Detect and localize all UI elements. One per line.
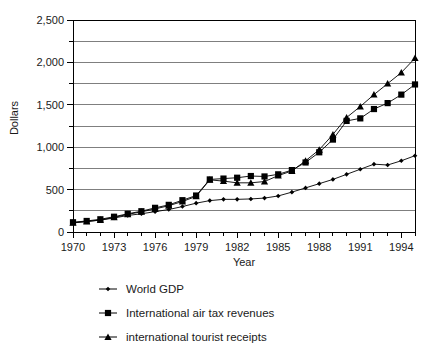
marker-square <box>385 100 391 106</box>
y-axis-title: Dollars <box>8 100 20 135</box>
x-tick-label: 1976 <box>143 241 167 253</box>
legend-label: international tourist receipts <box>126 331 267 343</box>
x-tick-label: 1979 <box>184 241 208 253</box>
y-tick-label: 1,000 <box>36 141 64 153</box>
marker-square <box>357 115 363 121</box>
y-tick-label: 2,500 <box>36 14 64 26</box>
marker-square <box>398 92 404 98</box>
y-tick-label: 500 <box>46 184 64 196</box>
x-tick-label: 1991 <box>348 241 372 253</box>
legend-label: International air tax revenues <box>126 307 275 319</box>
chart-figure: 05001,0001,5002,0002,500 197019731976197… <box>0 0 435 348</box>
x-tick-label: 1973 <box>102 241 126 253</box>
legend-item[interactable]: International air tax revenues <box>99 307 275 319</box>
x-tick-label: 1985 <box>266 241 290 253</box>
y-tick-label: 2,000 <box>36 56 64 68</box>
marker-square <box>248 173 254 179</box>
x-tick-label: 1988 <box>307 241 331 253</box>
chart-background <box>0 0 435 348</box>
legend-label: World GDP <box>126 283 184 295</box>
x-tick-label: 1970 <box>61 241 85 253</box>
x-axis-title: Year <box>233 256 256 268</box>
x-tick-label: 1994 <box>389 241 413 253</box>
legend-marker-square <box>105 310 111 316</box>
marker-square <box>412 81 418 87</box>
y-tick-label: 1,500 <box>36 99 64 111</box>
x-tick-label: 1982 <box>225 241 249 253</box>
x-axis-tick-labels: 197019731976197919821985198819911994 <box>61 241 414 253</box>
marker-square <box>371 106 377 112</box>
y-tick-label: 0 <box>58 226 64 238</box>
line-chart: 05001,0001,5002,0002,500 197019731976197… <box>0 0 435 348</box>
